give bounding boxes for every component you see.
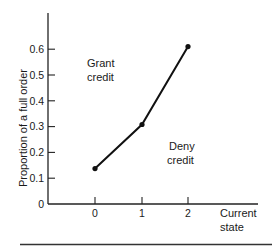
x-tick-label: 2 bbox=[185, 207, 191, 219]
data-point bbox=[185, 44, 190, 49]
annotation-grant-credit: Grant credit bbox=[87, 57, 118, 83]
y-ticks bbox=[48, 49, 55, 178]
y-axis-title: Proportion of a full order bbox=[17, 69, 29, 187]
x-axis-title: Current state bbox=[220, 207, 260, 233]
y-tick-label: 0.6 bbox=[29, 43, 44, 55]
annotation-line: credit bbox=[87, 71, 114, 83]
y-tick-label: 0 bbox=[38, 198, 44, 210]
x-axis-title-line: state bbox=[220, 221, 244, 233]
x-ticks bbox=[95, 197, 188, 204]
y-tick-label: 0.2 bbox=[29, 146, 44, 158]
x-axis-title-line: Current bbox=[220, 207, 257, 219]
y-tick-label: 0.5 bbox=[29, 69, 44, 81]
y-tick-label: 0.1 bbox=[29, 172, 44, 184]
data-point bbox=[92, 166, 97, 171]
y-tick-label: 0.4 bbox=[29, 95, 44, 107]
x-tick-label: 1 bbox=[139, 207, 145, 219]
y-tick-label: 0.3 bbox=[29, 120, 44, 132]
annotation-line: Deny bbox=[169, 140, 195, 152]
annotation-line: Grant bbox=[87, 57, 115, 69]
y-tick-labels: 0 0.1 0.2 0.3 0.4 0.5 0.6 bbox=[29, 43, 44, 210]
x-tick-label: 0 bbox=[92, 207, 98, 219]
data-point bbox=[139, 122, 144, 127]
annotation-line: credit bbox=[167, 154, 194, 166]
annotation-deny-credit: Deny credit bbox=[167, 140, 198, 166]
x-tick-labels: 0 1 2 bbox=[92, 207, 191, 219]
chart: 0 0.1 0.2 0.3 0.4 0.5 0.6 0 1 2 Current … bbox=[0, 0, 272, 246]
